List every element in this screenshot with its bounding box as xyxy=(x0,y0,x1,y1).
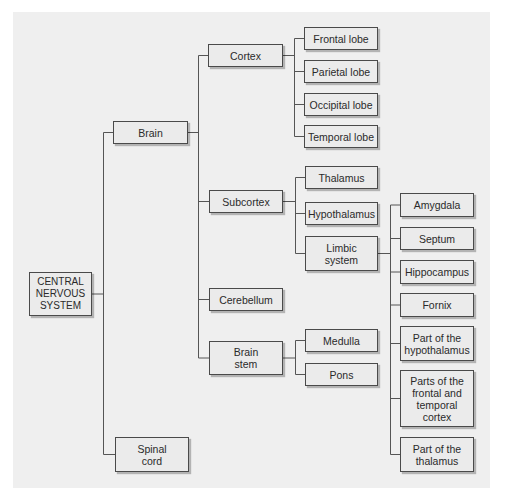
node-medulla: Medulla xyxy=(305,329,378,352)
node-pons: Pons xyxy=(305,363,378,386)
node-septum: Septum xyxy=(400,227,474,250)
node-subcortex: Subcortex xyxy=(209,190,283,213)
node-spinal-cord: Spinal cord xyxy=(115,437,189,472)
node-part-of-hypothalamus: Part of the hypothalamus xyxy=(400,326,474,361)
node-brain-stem: Brain stem xyxy=(209,341,283,375)
node-frontal-lobe: Frontal lobe xyxy=(304,27,378,50)
node-parts-of-frontal-temporal-cortex: Parts of the frontal and temporal cortex xyxy=(400,370,474,427)
node-brain: Brain xyxy=(113,121,188,144)
node-amygdala: Amygdala xyxy=(400,193,474,217)
node-part-of-thalamus: Part of the thalamus xyxy=(400,437,474,472)
node-hippocampus: Hippocampus xyxy=(400,260,474,284)
node-thalamus: Thalamus xyxy=(305,166,378,189)
node-cerebellum: Cerebellum xyxy=(209,288,283,311)
node-parietal-lobe: Parietal lobe xyxy=(304,60,378,83)
node-cortex: Cortex xyxy=(208,44,283,67)
node-occipital-lobe: Occipital lobe xyxy=(304,93,378,116)
node-temporal-lobe: Temporal lobe xyxy=(304,125,378,148)
node-central-nervous-system: CENTRAL NERVOUS SYSTEM xyxy=(29,272,92,316)
node-fornix: Fornix xyxy=(400,293,474,317)
node-limbic-system: Limbic system xyxy=(305,236,378,271)
node-hypothalamus: Hypothalamus xyxy=(305,202,378,225)
